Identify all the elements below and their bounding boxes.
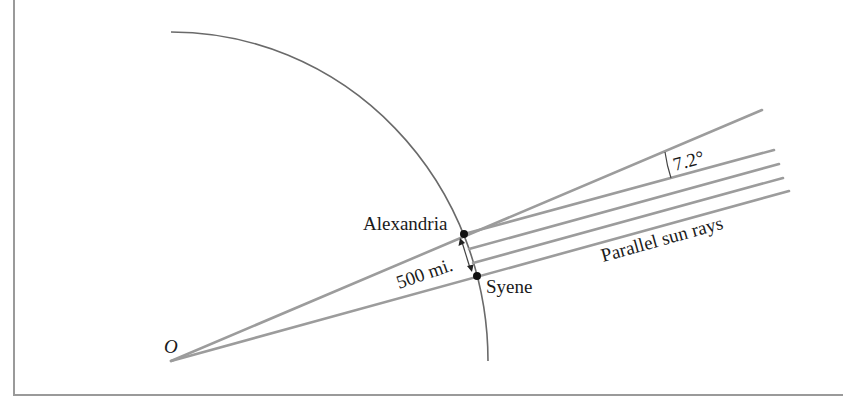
syene-point bbox=[473, 272, 481, 280]
alexandria-point bbox=[460, 230, 468, 238]
earth-circumference-arc bbox=[171, 32, 488, 361]
center-label: O bbox=[164, 336, 178, 357]
syene-label: Syene bbox=[486, 276, 532, 297]
distance-label: 500 mi. bbox=[393, 254, 455, 293]
alexandria-label: Alexandria bbox=[363, 213, 448, 234]
